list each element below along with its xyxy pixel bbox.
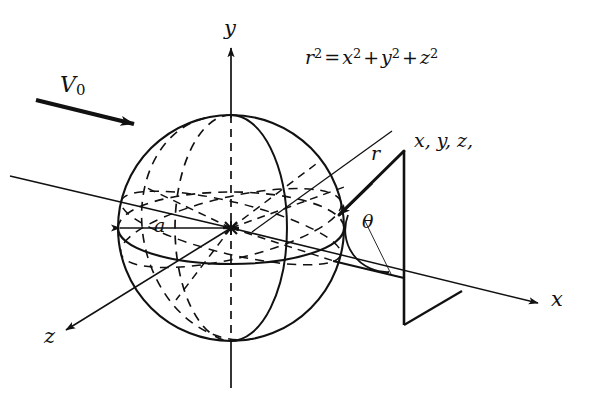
- velocity-subscript: 0: [76, 81, 86, 99]
- chord-upper-right: [231, 164, 316, 228]
- x-axis-label: x: [551, 289, 563, 310]
- z-axis-label: z: [44, 326, 55, 347]
- theta-label: θ: [362, 212, 373, 231]
- equation-term-z: z: [420, 46, 430, 68]
- diagram-canvas: [0, 0, 598, 410]
- radius-a-label: a: [154, 216, 165, 235]
- figure-container: y x z a r θ x, y, z, V0 r2=x2+y2+z2: [0, 0, 598, 410]
- y-axis-label: y: [224, 18, 236, 39]
- freestream-velocity-arrow: [36, 100, 134, 124]
- z-axis: [66, 228, 231, 330]
- coordinates-label: x, y, z,: [414, 131, 473, 150]
- velocity-symbol: V: [60, 72, 76, 97]
- origin-point: [223, 221, 239, 235]
- wedge-lower-edge: [333, 261, 404, 278]
- equation-plus-1: +: [361, 46, 381, 68]
- r-vector-label: r: [371, 144, 380, 163]
- equation-lhs-var: r: [305, 46, 314, 68]
- meridian-tilted-dashed: [120, 118, 257, 358]
- equation-equals: =: [322, 46, 342, 68]
- equation-term-y-exponent: 2: [392, 46, 400, 61]
- equation-term-z-exponent: 2: [430, 46, 438, 61]
- wedge-bottom-diagonal: [404, 291, 462, 325]
- freestream-velocity-label: V0: [60, 74, 85, 98]
- equation-term-y: y: [381, 46, 392, 68]
- meridian-front-arc: [231, 115, 287, 341]
- equation-plus-2: +: [400, 46, 420, 68]
- equation-term-x: x: [342, 46, 353, 68]
- equation-term-x-exponent: 2: [353, 46, 361, 61]
- sphere-equation: r2=x2+y2+z2: [305, 48, 438, 67]
